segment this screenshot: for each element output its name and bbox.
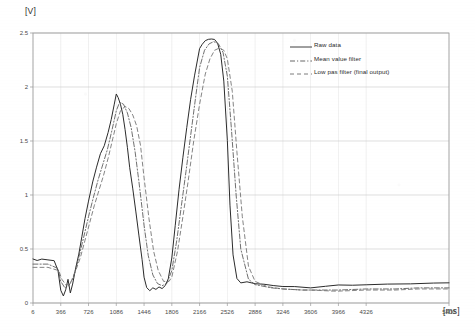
series-line-2: [33, 42, 449, 290]
legend-item-label: Raw data: [314, 41, 341, 48]
plot-canvas: [0, 0, 475, 336]
legend-line-sample: [290, 71, 312, 77]
legend-item-label: Mean value filter: [314, 55, 361, 62]
legend-line-sample: [290, 44, 312, 50]
voltage-time-chart: [V] [ms] 00.511.522.5 636672610861446180…: [0, 0, 475, 336]
data-series-group: [33, 39, 449, 296]
legend-item-label: Low pas filter (final output): [314, 68, 389, 75]
legend-line-sample: [290, 58, 312, 64]
series-line-1: [33, 39, 449, 296]
